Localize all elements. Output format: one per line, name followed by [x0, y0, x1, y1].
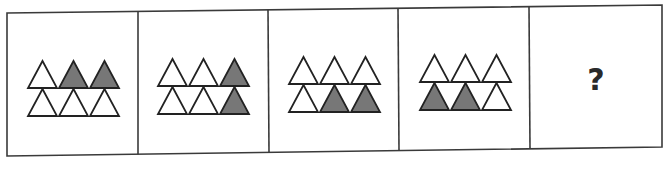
panel-3-triangles [289, 57, 380, 112]
panel-divider-3 [398, 8, 399, 150]
panel-2-triangles [158, 59, 249, 114]
panel-divider-2 [268, 10, 269, 153]
question-mark: ? [581, 65, 611, 95]
puzzle-strip: ? [0, 0, 667, 172]
puzzle-canvas [0, 0, 667, 172]
panel-4-triangles [420, 55, 511, 110]
panel-divider-4 [529, 7, 530, 149]
panel-1-triangles [28, 61, 119, 116]
